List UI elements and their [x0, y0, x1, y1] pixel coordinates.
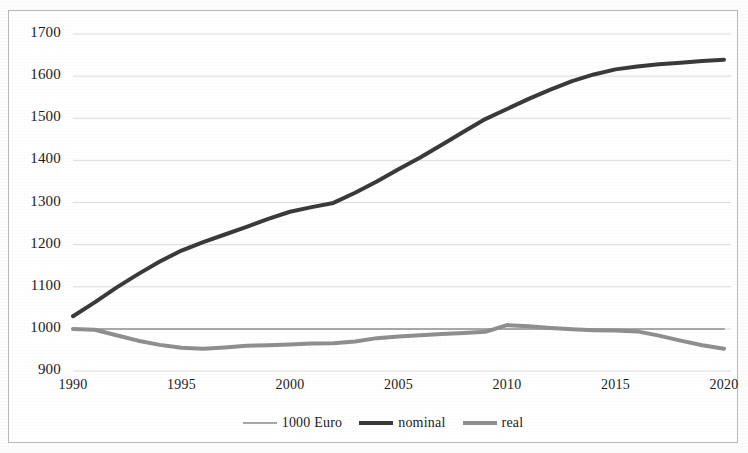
gridlines [73, 34, 731, 371]
data-series-group [73, 60, 724, 349]
chart-legend: 1000 Euronominalreal [9, 415, 748, 431]
x-axis-tick-label: 2000 [250, 377, 330, 393]
y-axis-tick-label: 1600 [9, 66, 61, 83]
y-axis-tick-label: 1300 [9, 193, 61, 210]
legend-item-real[interactable]: real [463, 415, 524, 431]
legend-swatch-icon [359, 421, 393, 425]
legend-item-label: 1000 Euro [282, 415, 343, 431]
y-axis-tick-label: 1200 [9, 235, 61, 252]
chart-frame: 90010001100120013001400150016001700 1990… [8, 10, 738, 443]
x-axis-tick-label: 2005 [359, 377, 439, 393]
y-axis-tick-label: 1400 [9, 150, 61, 167]
x-axis-tick-label: 1995 [142, 377, 222, 393]
legend-swatch-icon [463, 421, 497, 425]
x-axis-tick-label: 2010 [467, 377, 547, 393]
x-axis-tick-label: 1990 [33, 377, 113, 393]
y-axis-tick-label: 1100 [9, 277, 61, 294]
legend-item-nominal[interactable]: nominal [359, 415, 445, 431]
legend-item-label: nominal [398, 415, 445, 431]
y-axis-tick-label: 1700 [9, 24, 61, 41]
chart-figure: 90010001100120013001400150016001700 1990… [0, 0, 748, 453]
y-axis-tick-label: 900 [9, 361, 61, 378]
x-axis-tick-label: 2020 [684, 377, 748, 393]
x-axis-tick-label: 2015 [576, 377, 656, 393]
y-axis-tick-label: 1500 [9, 108, 61, 125]
series-line-nominal [73, 60, 724, 317]
legend-swatch-icon [243, 422, 277, 424]
legend-item-label: real [502, 415, 524, 431]
y-axis-tick-label: 1000 [9, 319, 61, 336]
legend-item-1000-euro[interactable]: 1000 Euro [243, 415, 343, 431]
